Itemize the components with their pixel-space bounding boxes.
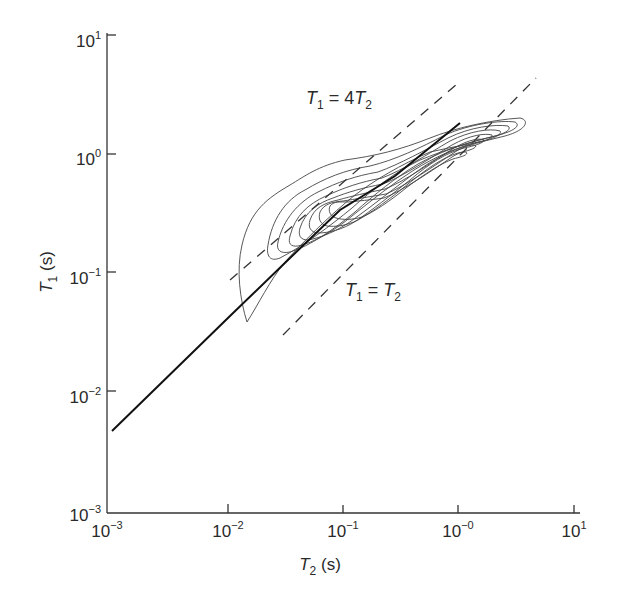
y-axis-title: T1 (s) [37,251,60,293]
x-tick-label: 10−2 [212,519,243,541]
y-tick-labels: 101 100 10−1 10−2 10−3 [70,29,101,525]
annotation-t1-eq-4t2: T1 = 4T2 [306,88,372,112]
y-tick-label: 100 [76,147,101,169]
y-tick-label: 101 [76,29,101,51]
y-tick-label: 10−2 [70,385,101,407]
y-tick-label: 10−1 [70,266,101,288]
line-t1-eq-4t2 [230,84,457,280]
annotation-t1-eq-t2: T1 = T2 [345,280,401,304]
x-tick-label: 10−1 [327,519,358,541]
x-tick-label: 101 [561,519,586,541]
trend-line [112,123,460,431]
x-tick-label: 10−0 [442,519,473,541]
x-tick-label: 10−3 [91,519,122,541]
x-tick-labels: 10−3 10−2 10−1 10−0 101 [91,519,586,541]
x-axis-title: T2 (s) [299,555,341,578]
t1-t2-chart: 101 100 10−1 10−2 10−3 10−3 10−2 10−1 10… [0,0,620,604]
